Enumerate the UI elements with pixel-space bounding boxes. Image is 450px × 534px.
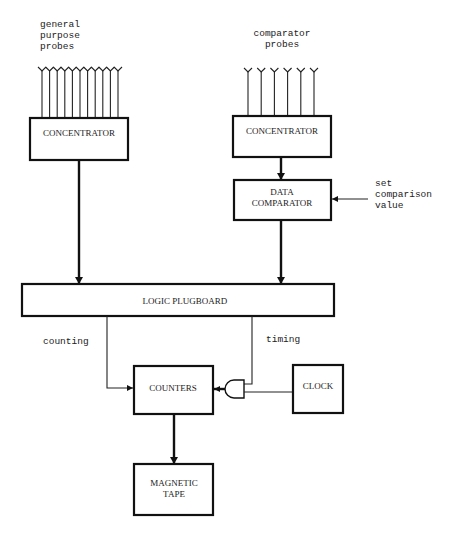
and-gate-icon (214, 380, 244, 398)
svg-text:value: value (375, 200, 404, 211)
svg-text:COUNTERS: COUNTERS (149, 383, 197, 393)
counting-label: counting (43, 336, 89, 347)
svg-text:probes: probes (265, 39, 299, 50)
set-comparison-value-label: set comparison value (375, 178, 432, 211)
timing-label: timing (266, 334, 300, 345)
comparator-probes-icon (244, 68, 318, 116)
svg-text:MAGNETIC: MAGNETIC (150, 478, 198, 488)
svg-text:set: set (375, 178, 392, 189)
concentrator-left-block: CONCENTRATOR (30, 118, 128, 160)
svg-text:DATA: DATA (270, 187, 294, 197)
comparator-probes-label: comparator probes (253, 28, 310, 50)
svg-text:probes: probes (40, 41, 74, 52)
general-probes-icon (38, 67, 122, 118)
data-comparator-block: DATA COMPARATOR (234, 180, 331, 220)
magnetic-tape-block: MAGNETIC TAPE (134, 464, 213, 515)
svg-text:general: general (40, 19, 80, 30)
clock-block: CLOCK (293, 365, 343, 413)
svg-text:purpose: purpose (40, 30, 80, 41)
svg-text:comparator: comparator (253, 28, 310, 39)
svg-text:LOGIC PLUGBOARD: LOGIC PLUGBOARD (143, 296, 228, 306)
timing-line (244, 316, 252, 384)
concentrator-right-block: CONCENTRATOR (233, 116, 331, 157)
counting-line (107, 316, 133, 388)
svg-text:CONCENTRATOR: CONCENTRATOR (246, 126, 318, 136)
svg-text:COMPARATOR: COMPARATOR (252, 198, 313, 208)
block-diagram: general purpose probes CONCENTRATOR comp… (0, 0, 450, 534)
svg-text:CLOCK: CLOCK (303, 381, 334, 391)
svg-text:TAPE: TAPE (163, 489, 185, 499)
logic-plugboard-block: LOGIC PLUGBOARD (22, 284, 334, 316)
svg-text:comparison: comparison (375, 189, 432, 200)
counters-block: COUNTERS (134, 366, 213, 414)
svg-text:CONCENTRATOR: CONCENTRATOR (43, 128, 115, 138)
general-probes-label: general purpose probes (40, 19, 80, 52)
